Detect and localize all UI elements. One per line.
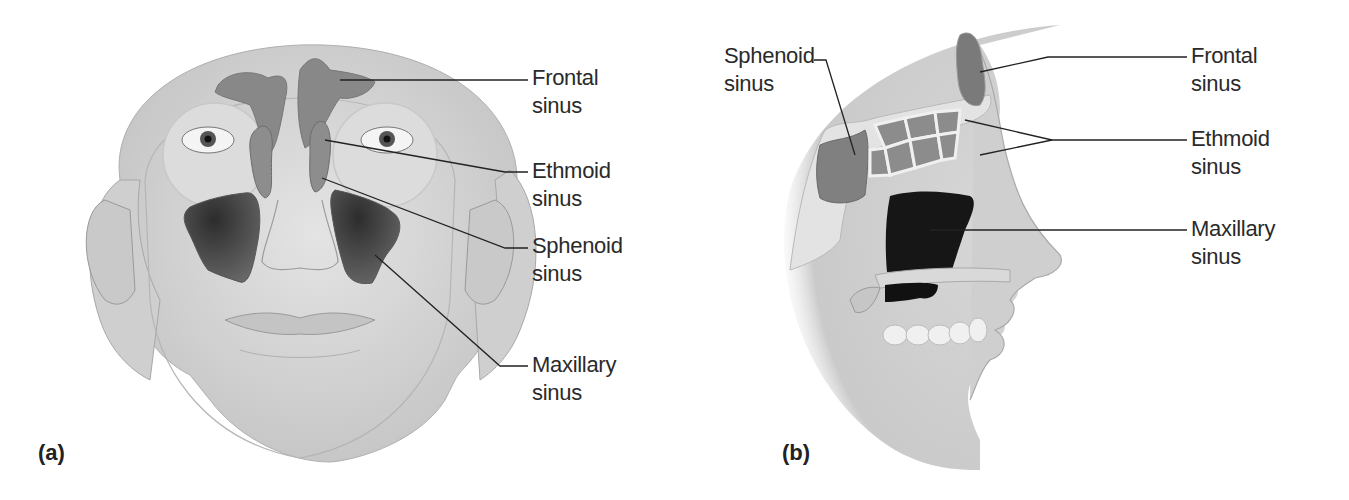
label-line: Sphenoid	[724, 42, 815, 70]
label-line: sinus	[1191, 70, 1257, 98]
panel-tag-a: (a)	[38, 440, 65, 466]
label-line: sinus	[1191, 243, 1275, 271]
label-line: Maxillary	[532, 351, 616, 379]
label-a-frontal-sinus: Frontal sinus	[532, 64, 598, 120]
label-line: sinus	[532, 185, 611, 213]
panel-tag-b: (b)	[782, 440, 810, 466]
label-line: Maxillary	[1191, 215, 1275, 243]
label-line: Frontal	[1191, 42, 1257, 70]
label-line: sinus	[1191, 153, 1270, 181]
label-line: sinus	[532, 260, 623, 288]
label-line: sinus	[532, 92, 598, 120]
label-a-maxillary-sinus: Maxillary sinus	[532, 351, 616, 407]
panel-a-frontal-view: Frontal sinus Ethmoid sinus Sphenoid sin…	[0, 0, 680, 500]
label-line: Frontal	[532, 64, 598, 92]
label-line: Ethmoid	[532, 157, 611, 185]
panel-b-sagittal-view: Sphenoid sinus Frontal sinus Ethmoid sin…	[680, 0, 1349, 500]
label-a-sphenoid-sinus: Sphenoid sinus	[532, 232, 623, 288]
label-line: Ethmoid	[1191, 125, 1270, 153]
label-line: Sphenoid	[532, 232, 623, 260]
label-line: sinus	[724, 70, 815, 98]
label-a-ethmoid-sinus: Ethmoid sinus	[532, 157, 611, 213]
label-b-sphenoid-sinus: Sphenoid sinus	[724, 42, 815, 98]
label-b-maxillary-sinus: Maxillary sinus	[1191, 215, 1275, 271]
label-b-frontal-sinus: Frontal sinus	[1191, 42, 1257, 98]
label-line: sinus	[532, 379, 616, 407]
label-b-ethmoid-sinus: Ethmoid sinus	[1191, 125, 1270, 181]
